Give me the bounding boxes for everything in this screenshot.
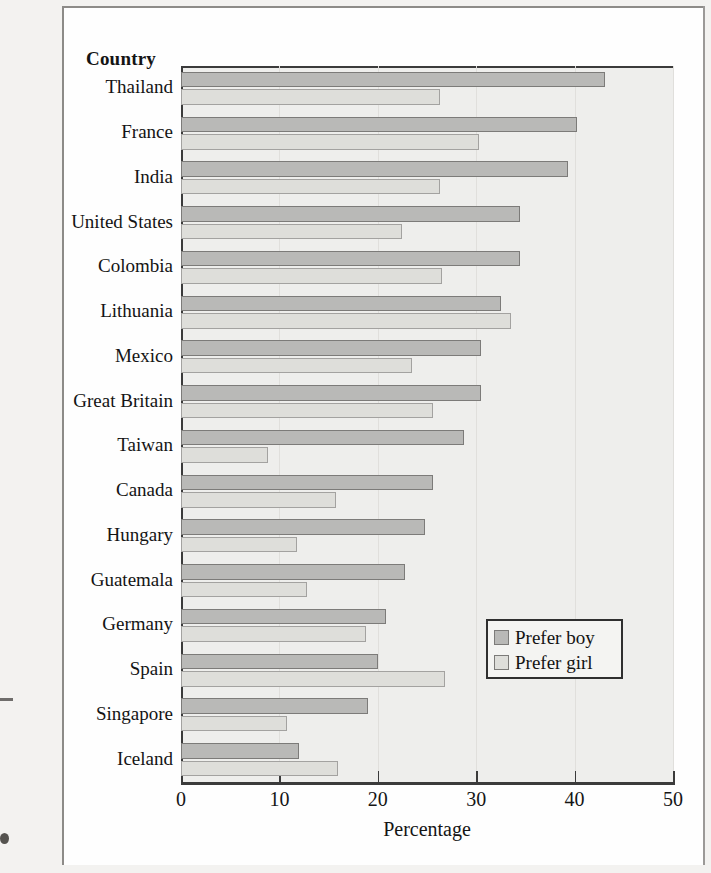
- bar-singapore-prefer-boy: [181, 698, 368, 714]
- bar-great-britain-prefer-boy: [181, 385, 481, 401]
- y-axis-label-lithuania: Lithuania: [68, 300, 173, 322]
- bar-lithuania-prefer-girl: [181, 313, 511, 329]
- y-axis-label-thailand: Thailand: [68, 76, 173, 98]
- bar-spain-prefer-girl: [181, 671, 445, 687]
- x-axis-tick: [575, 771, 577, 783]
- legend-item-prefer-girl: Prefer girl: [494, 650, 615, 675]
- legend-swatch-prefer-girl: [494, 655, 509, 670]
- y-axis-label-india: India: [68, 166, 173, 188]
- x-axis-tick: [378, 771, 380, 783]
- bar-iceland-prefer-girl: [181, 761, 338, 777]
- x-axis-tick-label: 40: [565, 788, 585, 811]
- y-axis-label-hungary: Hungary: [68, 524, 173, 546]
- bar-iceland-prefer-boy: [181, 743, 299, 759]
- y-axis-label-canada: Canada: [68, 479, 173, 501]
- y-axis-label-singapore: Singapore: [68, 703, 173, 725]
- scanned-page: Country Percentage Prefer boy Prefer gir…: [62, 6, 704, 865]
- bar-germany-prefer-boy: [181, 609, 386, 625]
- y-axis-label-taiwan: Taiwan: [68, 434, 173, 456]
- bar-france-prefer-boy: [181, 117, 577, 133]
- x-axis-tick-label: 50: [663, 788, 683, 811]
- y-axis-label-great-britain: Great Britain: [68, 390, 173, 412]
- x-axis-tick: [476, 771, 478, 783]
- x-axis-tick-label: 10: [269, 788, 289, 811]
- y-axis-label-france: France: [68, 121, 173, 143]
- bar-spain-prefer-boy: [181, 654, 378, 670]
- bar-singapore-prefer-girl: [181, 716, 287, 732]
- y-axis-label-spain: Spain: [68, 658, 173, 680]
- x-axis-line: [181, 782, 675, 785]
- grouped-bar-chart: Country Percentage Prefer boy Prefer gir…: [64, 8, 704, 865]
- bar-thailand-prefer-girl: [181, 89, 440, 105]
- legend-swatch-prefer-boy: [494, 630, 509, 645]
- bar-thailand-prefer-boy: [181, 72, 605, 88]
- x-axis-tick: [673, 771, 675, 783]
- x-axis-tick-label: 20: [368, 788, 388, 811]
- legend-label-prefer-boy: Prefer boy: [515, 628, 595, 647]
- bar-hungary-prefer-girl: [181, 537, 297, 553]
- chart-legend: Prefer boy Prefer girl: [486, 619, 623, 679]
- legend-item-prefer-boy: Prefer boy: [494, 625, 615, 650]
- y-axis-label-united-states: United States: [68, 211, 173, 233]
- bar-guatemala-prefer-girl: [181, 582, 307, 598]
- bar-india-prefer-girl: [181, 179, 440, 195]
- bar-colombia-prefer-girl: [181, 268, 442, 284]
- y-axis-label-mexico: Mexico: [68, 345, 173, 367]
- y-axis-label-guatemala: Guatemala: [68, 569, 173, 591]
- bar-mexico-prefer-boy: [181, 340, 481, 356]
- margin-artifact-dot: [0, 833, 9, 844]
- bar-lithuania-prefer-boy: [181, 296, 501, 312]
- margin-artifact-dash: [0, 698, 13, 701]
- bar-taiwan-prefer-girl: [181, 447, 268, 463]
- bar-united-states-prefer-girl: [181, 224, 402, 240]
- y-axis-label-colombia: Colombia: [68, 255, 173, 277]
- bar-great-britain-prefer-girl: [181, 403, 433, 419]
- x-axis-tick-label: 0: [176, 788, 186, 811]
- y-axis-label-germany: Germany: [68, 613, 173, 635]
- legend-label-prefer-girl: Prefer girl: [515, 653, 593, 672]
- bar-india-prefer-boy: [181, 161, 568, 177]
- bar-germany-prefer-girl: [181, 626, 366, 642]
- bar-france-prefer-girl: [181, 134, 479, 150]
- bar-hungary-prefer-boy: [181, 519, 425, 535]
- bar-guatemala-prefer-boy: [181, 564, 405, 580]
- bar-colombia-prefer-boy: [181, 251, 520, 267]
- bar-canada-prefer-boy: [181, 475, 433, 491]
- x-axis-tick-label: 30: [466, 788, 486, 811]
- x-axis-title: Percentage: [181, 818, 673, 841]
- y-axis-title: Country: [86, 48, 156, 70]
- bar-united-states-prefer-boy: [181, 206, 520, 222]
- page-right-edge: [703, 6, 705, 865]
- bar-canada-prefer-girl: [181, 492, 336, 508]
- bar-mexico-prefer-girl: [181, 358, 412, 374]
- y-axis-label-iceland: Iceland: [68, 748, 173, 770]
- bar-taiwan-prefer-boy: [181, 430, 464, 446]
- gridline: [673, 66, 674, 782]
